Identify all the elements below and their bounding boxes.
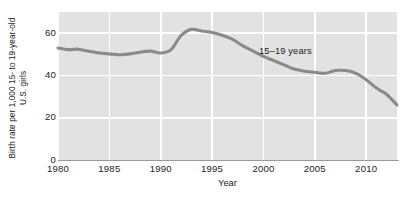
y-tick-label-40: 40 <box>10 69 56 80</box>
x-tick-label-1980: 1980 <box>35 163 81 174</box>
x-tick-label-2005: 2005 <box>292 163 338 174</box>
x-tick-label-1995: 1995 <box>189 163 235 174</box>
x-axis-line <box>58 160 399 161</box>
y-axis-tick-labels: 0204060 <box>8 0 56 209</box>
x-axis-title: Year <box>58 177 397 188</box>
series-canvas <box>58 12 397 160</box>
y-tick-label-20: 20 <box>10 111 56 122</box>
x-tick-label-1985: 1985 <box>86 163 132 174</box>
series-annotation-label: 15–19 years <box>259 45 312 56</box>
plot-area <box>58 12 397 160</box>
x-tick-label-2000: 2000 <box>240 163 286 174</box>
series-line-15-19-years <box>58 29 397 105</box>
x-tick-label-2010: 2010 <box>343 163 389 174</box>
y-tick-label-60: 60 <box>10 27 56 38</box>
x-tick-label-1990: 1990 <box>138 163 184 174</box>
teen-birth-rate-line-chart: Birth rate per 1,000 15- to 19-year-old … <box>0 0 402 209</box>
